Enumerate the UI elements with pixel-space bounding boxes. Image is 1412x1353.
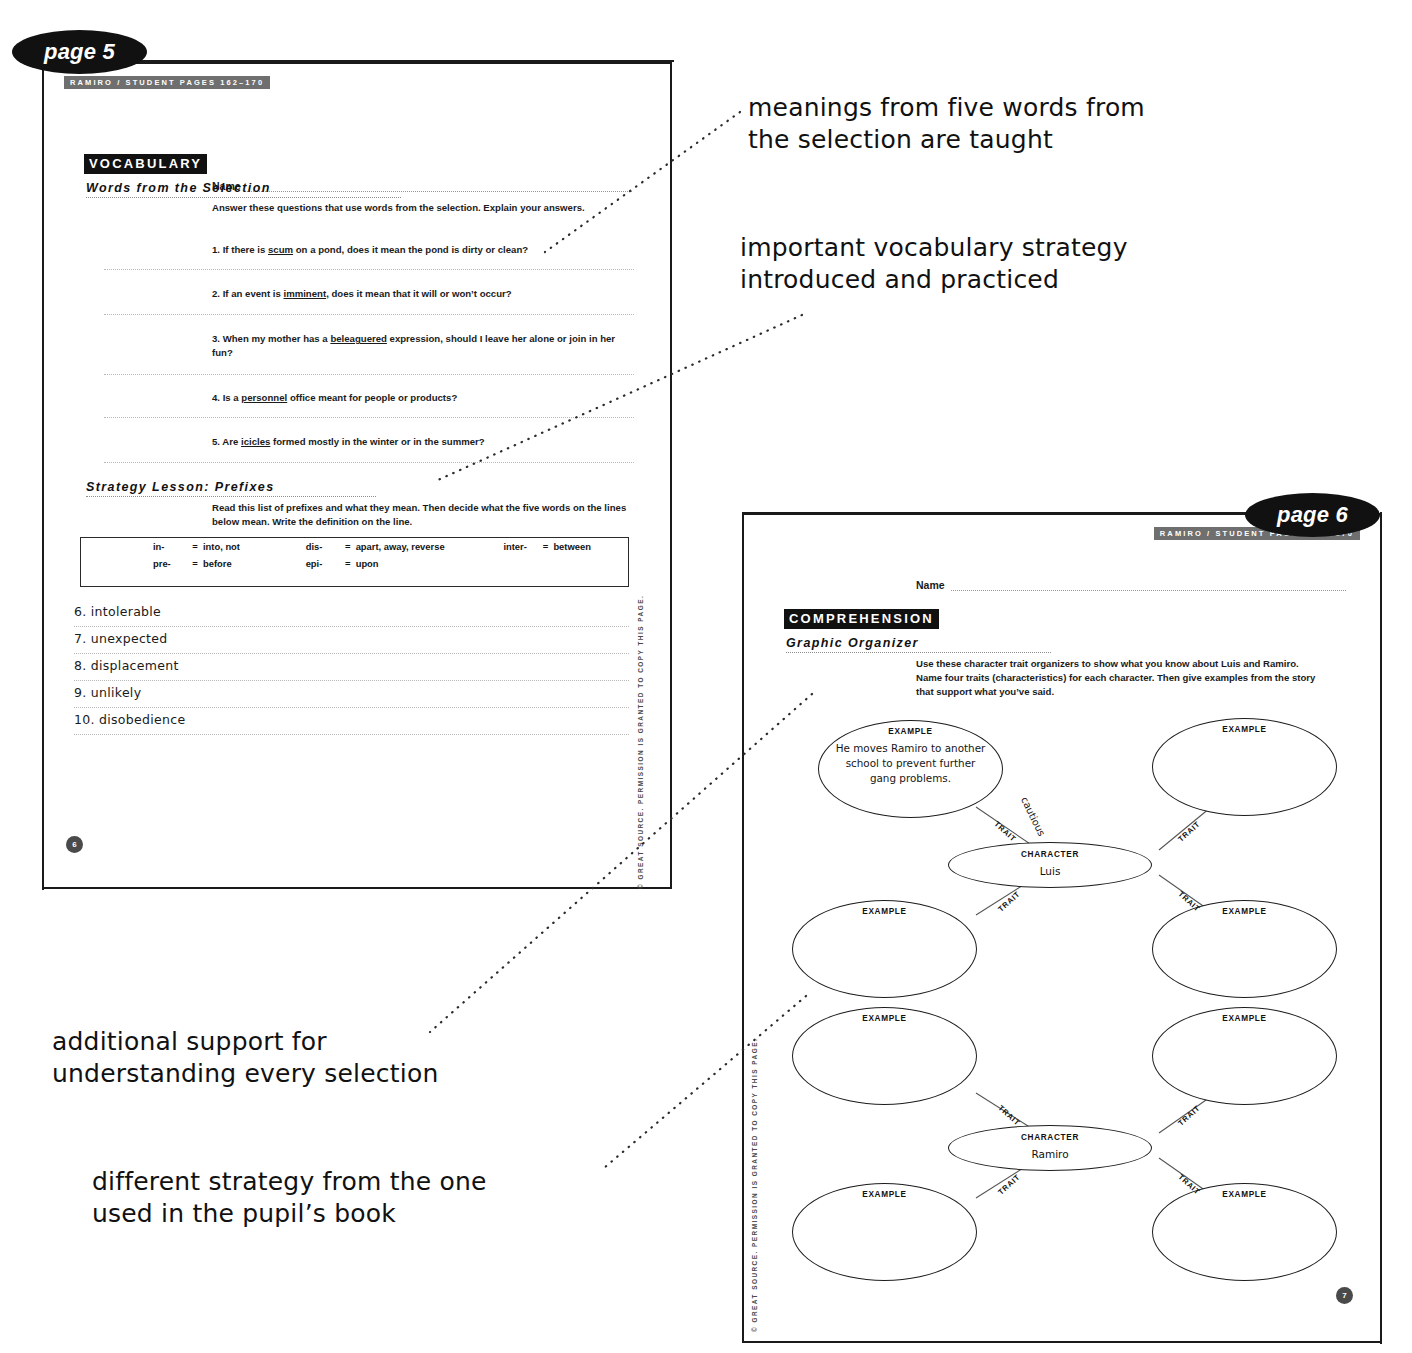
prefix-epi: epi- bbox=[306, 558, 340, 569]
strategy-lesson-subhead: Strategy Lesson: Prefixes bbox=[86, 480, 275, 494]
question-5-number: 5. bbox=[212, 436, 220, 447]
question-3-word: beleaguered bbox=[330, 333, 387, 344]
character-name-ramiro: Ramiro bbox=[949, 1148, 1151, 1160]
answer-line-3[interactable] bbox=[104, 374, 634, 375]
prefix-table-row: in-=into, not dis-=apart, away, reverse … bbox=[81, 538, 628, 555]
page-6-right-rule bbox=[1380, 512, 1382, 1344]
page-5-running-head: RAMIRO / STUDENT PAGES 162–170 bbox=[64, 76, 270, 89]
answer-line-1[interactable] bbox=[104, 269, 634, 270]
example-label: EXAMPLE bbox=[1153, 1014, 1336, 1023]
question-4-word: personnel bbox=[241, 392, 287, 403]
words-instruction: Answer these questions that use words fr… bbox=[212, 201, 612, 215]
words-subhead-rule bbox=[86, 197, 401, 198]
name-writing-line[interactable] bbox=[247, 181, 632, 192]
page-6-tab: page 6 bbox=[1245, 493, 1380, 537]
page-6-copyright: © GREAT SOURCE. PERMISSION IS GRANTED TO… bbox=[751, 1038, 758, 1332]
page-6-page-number: 7 bbox=[1336, 1287, 1353, 1304]
definition-line-7[interactable] bbox=[74, 653, 629, 654]
callout-vocab-words: meanings from five words from the select… bbox=[748, 92, 1268, 156]
definition-line-6[interactable] bbox=[74, 626, 629, 627]
prefix-reference-box: in-=into, not dis-=apart, away, reverse … bbox=[80, 537, 629, 587]
question-2-after: , does it mean that it will or won’t occ… bbox=[326, 288, 512, 299]
prefix-epi-eq: = bbox=[340, 558, 356, 569]
ramiro-example-oval-4[interactable]: EXAMPLE bbox=[1152, 1183, 1337, 1281]
page-6-sheet: RAMIRO / STUDENT PAGES 162–170 Name COMP… bbox=[742, 513, 1382, 1343]
question-2-word: imminent bbox=[283, 288, 326, 299]
words-from-selection-subhead: Words from the Selection bbox=[86, 181, 271, 195]
definition-line-9[interactable] bbox=[74, 707, 629, 708]
prefix-table-row: pre-=before epi-=upon bbox=[81, 555, 628, 572]
question-1-before: If there is bbox=[223, 244, 268, 255]
answer-line-5[interactable] bbox=[104, 462, 634, 463]
prefix-cell-empty bbox=[501, 555, 628, 572]
prefix-pre: pre- bbox=[153, 558, 187, 569]
definition-line-10[interactable] bbox=[74, 734, 629, 735]
question-5: 5. Are icicles formed mostly in the wint… bbox=[212, 435, 612, 449]
handwritten-word-8: 8. displacement bbox=[74, 658, 179, 673]
prefix-table: in-=into, not dis-=apart, away, reverse … bbox=[81, 538, 628, 572]
example-label: EXAMPLE bbox=[793, 1014, 976, 1023]
character-organizer-ramiro: EXAMPLE EXAMPLE CHARACTER Ramiro EXAMPLE… bbox=[744, 515, 1380, 1341]
handwritten-word-6: 6. intolerable bbox=[74, 604, 161, 619]
question-3: 3. When my mother has a beleaguered expr… bbox=[212, 332, 627, 360]
answer-line-2[interactable] bbox=[104, 314, 634, 315]
question-1-number: 1. bbox=[212, 244, 220, 255]
ramiro-example-oval-3[interactable]: EXAMPLE bbox=[792, 1183, 977, 1281]
question-4-after: office meant for people or products? bbox=[287, 392, 457, 403]
ramiro-example-oval-2[interactable]: EXAMPLE bbox=[1152, 1007, 1337, 1105]
prefix-cell-pre: pre-=before bbox=[81, 555, 304, 572]
prefix-cell-epi: epi-=upon bbox=[304, 555, 502, 572]
prefix-pre-eq: = bbox=[187, 558, 203, 569]
question-4: 4. Is a personnel office meant for peopl… bbox=[212, 391, 612, 405]
character-label: CHARACTER bbox=[949, 1133, 1151, 1142]
page-6-rule bbox=[742, 512, 1262, 514]
strategy-instruction: Read this list of prefixes and what they… bbox=[212, 501, 627, 529]
prefix-in-eq: = bbox=[187, 541, 203, 552]
page-5-name-row: Name bbox=[212, 180, 632, 192]
handwritten-word-7: 7. unexpected bbox=[74, 631, 168, 646]
question-2: 2. If an event is imminent, does it mean… bbox=[212, 287, 612, 301]
page-5-tab: page 5 bbox=[12, 30, 147, 74]
prefix-pre-meaning: before bbox=[203, 558, 232, 569]
question-1-after: on a pond, does it mean the pond is dirt… bbox=[293, 244, 528, 255]
handwritten-word-10: 10. disobedience bbox=[74, 712, 185, 727]
question-4-number: 4. bbox=[212, 392, 220, 403]
strategy-subhead-rule bbox=[86, 496, 376, 497]
callout-support: additional support for understanding eve… bbox=[52, 1026, 572, 1090]
ramiro-character-oval[interactable]: CHARACTER Ramiro bbox=[948, 1125, 1152, 1171]
prefix-epi-meaning: upon bbox=[356, 558, 379, 569]
question-3-number: 3. bbox=[212, 333, 220, 344]
callout-vocab-strategy: important vocabulary strategy introduced… bbox=[740, 232, 1260, 296]
question-5-word: icicles bbox=[241, 436, 270, 447]
question-1: 1. If there is scum on a pond, does it m… bbox=[212, 243, 612, 257]
page-5-rule bbox=[120, 60, 674, 62]
prefix-inter-eq: = bbox=[537, 541, 553, 552]
handwritten-word-9: 9. unlikely bbox=[74, 685, 141, 700]
callout-strategy-diff: different strategy from the one used in … bbox=[92, 1166, 652, 1230]
prefix-cell-dis: dis-=apart, away, reverse bbox=[304, 538, 502, 555]
question-5-after: formed mostly in the winter or in the su… bbox=[270, 436, 484, 447]
prefix-dis-eq: = bbox=[340, 541, 356, 552]
page-5-sheet: RAMIRO / STUDENT PAGES 162–170 Name VOCA… bbox=[42, 62, 672, 889]
vocabulary-banner: VOCABULARY bbox=[84, 154, 207, 174]
page-5-page-number: 6 bbox=[66, 836, 83, 853]
prefix-in: in- bbox=[153, 541, 187, 552]
ramiro-example-oval-1[interactable]: EXAMPLE bbox=[792, 1007, 977, 1105]
annotated-spread: RAMIRO / STUDENT PAGES 162–170 Name VOCA… bbox=[0, 0, 1412, 1353]
prefix-cell-in: in-=into, not bbox=[81, 538, 304, 555]
example-label: EXAMPLE bbox=[1153, 1190, 1336, 1199]
page-5-left-rule bbox=[42, 60, 44, 890]
prefix-cell-inter: inter-=between bbox=[501, 538, 628, 555]
answer-line-4[interactable] bbox=[104, 417, 634, 418]
prefix-inter-meaning: between bbox=[553, 541, 591, 552]
question-1-word: scum bbox=[268, 244, 293, 255]
example-label: EXAMPLE bbox=[793, 1190, 976, 1199]
prefix-dis-meaning: apart, away, reverse bbox=[356, 541, 445, 552]
definition-line-8[interactable] bbox=[74, 680, 629, 681]
page-5-copyright: © GREAT SOURCE. PERMISSION IS GRANTED TO… bbox=[637, 595, 644, 889]
prefix-inter: inter- bbox=[503, 541, 537, 552]
prefix-dis: dis- bbox=[306, 541, 340, 552]
question-3-before: When my mother has a bbox=[223, 333, 331, 344]
question-2-number: 2. bbox=[212, 288, 220, 299]
question-5-before: Are bbox=[222, 436, 241, 447]
